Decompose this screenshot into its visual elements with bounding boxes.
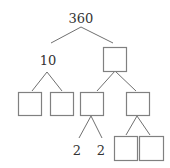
empty-answer-box[interactable] (51, 93, 74, 116)
tree-edge-n1-n3 (32, 72, 47, 91)
empty-answer-box[interactable] (19, 93, 42, 116)
tree-nodes: 3601022 (19, 11, 164, 161)
tree-edge-n6-n10 (137, 116, 150, 135)
tree-edge-n5-n7 (79, 116, 91, 138)
root-number-label: 360 (69, 11, 94, 26)
empty-answer-box[interactable] (115, 137, 138, 161)
factor-number-label: 2 (97, 143, 105, 158)
tree-edge-n2-n5 (97, 71, 115, 91)
factor-number-label: 2 (73, 143, 81, 158)
tree-edge-n2-n6 (115, 71, 136, 91)
empty-answer-box[interactable] (127, 93, 150, 116)
factor-number-label: 10 (40, 53, 57, 68)
tree-edge-n0-n2 (81, 27, 113, 43)
empty-answer-box[interactable] (140, 137, 164, 161)
factor-tree-diagram: 3601022 (0, 0, 170, 168)
empty-answer-box[interactable] (81, 93, 104, 116)
tree-edge-n6-n9 (126, 116, 137, 135)
empty-answer-box[interactable] (104, 48, 127, 72)
tree-edge-n5-n8 (91, 116, 102, 138)
tree-edge-n0-n1 (51, 27, 81, 43)
tree-edge-n1-n4 (47, 72, 62, 91)
tree-edges (32, 27, 150, 138)
